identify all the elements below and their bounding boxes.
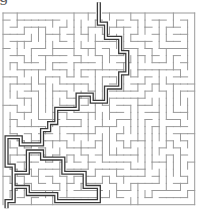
maze-board	[0, 0, 197, 209]
